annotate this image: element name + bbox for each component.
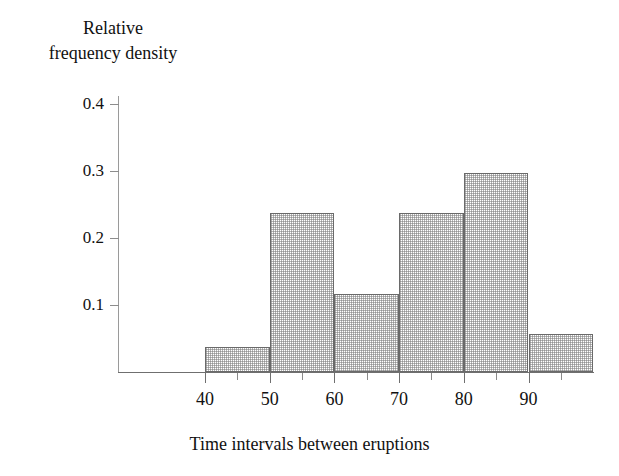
x-tick-label: 50 xyxy=(250,388,290,410)
y-tick-label: 0.4 xyxy=(60,95,104,112)
y-tick-mark xyxy=(110,171,119,172)
histogram-bar xyxy=(464,173,529,372)
x-tick-label: 60 xyxy=(314,388,354,410)
x-tick-label: 40 xyxy=(185,388,225,410)
y-tick-label-wrap: 0.2 xyxy=(56,229,104,246)
x-tick-major xyxy=(464,373,465,383)
x-tick-minor xyxy=(237,373,238,380)
histogram-bar xyxy=(270,213,335,372)
x-axis-title: Time intervals between eruptions xyxy=(0,432,619,456)
x-tick-label: 70 xyxy=(379,388,419,410)
x-tick-label: 80 xyxy=(444,388,484,410)
y-axis-line xyxy=(118,96,119,373)
y-tick-label-wrap: 0.3 xyxy=(56,162,104,179)
y-tick-label: 0.3 xyxy=(60,162,104,179)
y-tick-label-wrap: 0.1 xyxy=(56,296,104,313)
histogram-bar xyxy=(205,347,270,372)
histogram-bar xyxy=(529,334,594,372)
y-tick-label-wrap: 0.4 xyxy=(56,95,104,112)
x-tick-minor xyxy=(367,373,368,380)
x-axis-line xyxy=(118,372,594,373)
x-tick-minor xyxy=(302,373,303,380)
y-tick-label: 0.2 xyxy=(60,229,104,246)
y-tick-mark xyxy=(110,305,119,306)
x-tick-minor xyxy=(431,373,432,380)
histogram-bar xyxy=(399,213,464,372)
histogram-bar xyxy=(334,294,399,372)
x-tick-major xyxy=(399,373,400,383)
x-tick-major xyxy=(205,373,206,383)
x-tick-major xyxy=(334,373,335,383)
y-tick-label: 0.1 xyxy=(60,296,104,313)
x-tick-label: 90 xyxy=(509,388,549,410)
x-tick-major xyxy=(529,373,530,383)
y-tick-mark xyxy=(110,238,119,239)
x-tick-major xyxy=(270,373,271,383)
x-tick-minor xyxy=(496,373,497,380)
y-tick-mark xyxy=(110,104,119,105)
plot-area: 0.40.30.20.1 405060708090 xyxy=(0,0,619,476)
histogram-figure: Relative frequency density 0.40.30.20.1 … xyxy=(0,0,619,476)
x-tick-minor xyxy=(561,373,562,380)
